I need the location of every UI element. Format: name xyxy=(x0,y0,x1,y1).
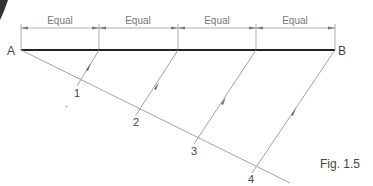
corner-mark xyxy=(0,0,8,20)
figure-caption: Fig. 1.5 xyxy=(320,157,360,171)
parallel-lines xyxy=(77,50,335,173)
segment-label: Equal xyxy=(47,15,73,26)
segment-label: Equal xyxy=(282,15,308,26)
segment-label: Equal xyxy=(125,15,151,26)
division-label: 2 xyxy=(133,116,139,128)
point-b-label: B xyxy=(338,44,346,58)
stray-mark: + xyxy=(65,103,68,109)
segment-label: Equal xyxy=(204,15,230,26)
construction-line xyxy=(21,50,290,183)
division-label: 3 xyxy=(191,145,197,157)
parallel-arrows xyxy=(86,63,296,116)
division-label: 4 xyxy=(248,173,254,185)
division-label: 1 xyxy=(74,87,80,99)
point-a-label: A xyxy=(7,44,15,58)
line-division-diagram: Equal Equal Equal Equal A B 1 2 3 4 + Fi… xyxy=(0,0,373,186)
